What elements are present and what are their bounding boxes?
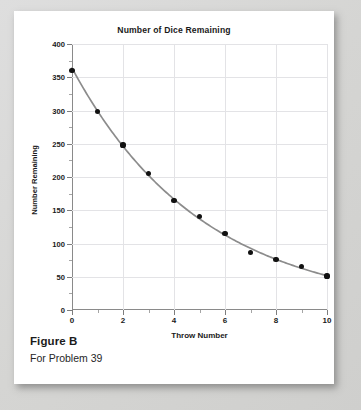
data-point bbox=[222, 231, 227, 236]
figure-card: Number of Dice Remaining Number Remainin… bbox=[14, 11, 334, 384]
y-tick-label: 50 bbox=[57, 272, 65, 281]
chart-title: Number of Dice Remaining bbox=[14, 25, 334, 35]
page-background: Number of Dice Remaining Number Remainin… bbox=[0, 0, 361, 410]
data-point bbox=[69, 68, 74, 73]
x-tick bbox=[72, 310, 73, 315]
figure-caption: Figure B For Problem 39 bbox=[30, 335, 310, 364]
x-tick-minor bbox=[200, 310, 201, 313]
y-tick-label: 350 bbox=[52, 73, 65, 82]
y-tick-label: 300 bbox=[52, 106, 65, 115]
x-tick bbox=[276, 310, 277, 315]
y-tick-label: 250 bbox=[52, 139, 65, 148]
x-tick-label: 6 bbox=[223, 316, 227, 325]
x-tick bbox=[225, 310, 226, 315]
chart-container: Number of Dice Remaining Number Remainin… bbox=[14, 15, 334, 315]
data-point bbox=[120, 142, 125, 147]
x-tick-label: 0 bbox=[70, 316, 74, 325]
x-tick-label: 4 bbox=[172, 316, 176, 325]
plot-region: 050100150200250300350400 0246810 bbox=[72, 44, 327, 310]
x-tick-minor bbox=[302, 310, 303, 313]
gridline-vertical bbox=[327, 44, 328, 310]
data-point bbox=[248, 250, 253, 255]
x-tick-label: 10 bbox=[323, 316, 332, 325]
y-tick-label: 200 bbox=[52, 173, 65, 182]
x-tick bbox=[327, 310, 328, 315]
data-point bbox=[324, 273, 329, 278]
figure-label: Figure B bbox=[30, 335, 310, 347]
trend-curve bbox=[72, 44, 327, 310]
trend-curve-path bbox=[72, 68, 327, 276]
y-tick-label: 0 bbox=[61, 306, 65, 315]
x-tick bbox=[123, 310, 124, 315]
figure-subtitle: For Problem 39 bbox=[30, 352, 310, 364]
x-tick-minor bbox=[98, 310, 99, 313]
data-point bbox=[273, 257, 278, 262]
x-tick bbox=[174, 310, 175, 315]
y-axis-title: Number Remaining bbox=[30, 120, 39, 240]
y-tick-label: 150 bbox=[52, 206, 65, 215]
x-tick-label: 8 bbox=[274, 316, 278, 325]
y-tick-label: 400 bbox=[52, 40, 65, 49]
y-tick-label: 100 bbox=[52, 239, 65, 248]
data-point bbox=[171, 198, 176, 203]
x-tick-minor bbox=[149, 310, 150, 313]
data-point bbox=[197, 214, 202, 219]
x-tick-minor bbox=[251, 310, 252, 313]
x-tick-label: 2 bbox=[121, 316, 125, 325]
